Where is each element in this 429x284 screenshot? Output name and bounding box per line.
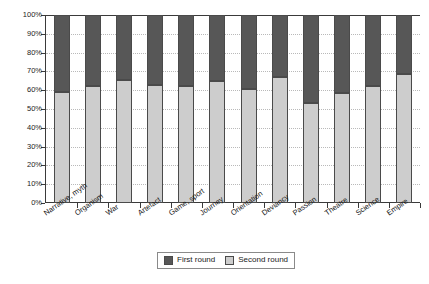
y-tick-label: 50%: [2, 105, 42, 113]
bar-segment-first-round[interactable]: [365, 15, 381, 86]
stacked-bar[interactable]: [365, 15, 381, 203]
bar-slot: [233, 15, 264, 203]
x-tick-mark: [420, 203, 421, 208]
bar-slot: [389, 15, 420, 203]
bar-segment-first-round[interactable]: [147, 15, 163, 85]
stacked-bar[interactable]: [116, 15, 132, 203]
bar-slot: [327, 15, 358, 203]
bar-slot: [140, 15, 171, 203]
stacked-bar[interactable]: [334, 15, 350, 203]
bar-segment-second-round[interactable]: [334, 93, 350, 203]
y-tick-label: 10%: [2, 180, 42, 188]
bar-slot: [46, 15, 77, 203]
y-tick-label: 30%: [2, 143, 42, 151]
legend-item-second-round: Second round: [225, 255, 288, 265]
bar-segment-second-round[interactable]: [272, 77, 288, 203]
y-tick-label: 0%: [2, 199, 42, 207]
bar-segment-first-round[interactable]: [209, 15, 225, 81]
bar-segment-second-round[interactable]: [396, 74, 412, 203]
legend-swatch-first-round: [164, 256, 173, 265]
bar-segment-second-round[interactable]: [178, 86, 194, 203]
bar-segment-first-round[interactable]: [178, 15, 194, 86]
bar-segment-first-round[interactable]: [334, 15, 350, 93]
bar-segment-second-round[interactable]: [116, 80, 132, 203]
bar-segment-second-round[interactable]: [54, 92, 70, 203]
stacked-bar[interactable]: [241, 15, 257, 203]
bar-segment-second-round[interactable]: [209, 81, 225, 203]
bar-slot: [77, 15, 108, 203]
bar-slot: [358, 15, 389, 203]
y-tick-label: 100%: [2, 11, 42, 19]
bar-slot: [202, 15, 233, 203]
bar-segment-second-round[interactable]: [365, 86, 381, 204]
stacked-bar[interactable]: [147, 15, 163, 203]
bar-slot: [171, 15, 202, 203]
bar-segment-first-round[interactable]: [54, 15, 70, 92]
bar-segment-first-round[interactable]: [116, 15, 132, 80]
legend-label-first-round: First round: [177, 255, 215, 265]
bar-segment-second-round[interactable]: [241, 89, 257, 203]
legend-label-second-round: Second round: [238, 255, 288, 265]
bar-slot: [264, 15, 295, 203]
bar-segment-first-round[interactable]: [303, 15, 319, 103]
y-tick-label: 60%: [2, 86, 42, 94]
stacked-bar[interactable]: [209, 15, 225, 203]
bar-segment-first-round[interactable]: [396, 15, 412, 74]
legend-swatch-second-round: [225, 256, 234, 265]
y-tick-label: 90%: [2, 30, 42, 38]
bars-layer: [46, 15, 420, 203]
y-tick-label: 20%: [2, 161, 42, 169]
bar-segment-first-round[interactable]: [85, 15, 101, 86]
bar-segment-first-round[interactable]: [272, 15, 288, 77]
stacked-bar-chart: 0%10%20%30%40%50%60%70%80%90%100% Narrat…: [0, 0, 429, 284]
stacked-bar[interactable]: [303, 15, 319, 203]
stacked-bar[interactable]: [272, 15, 288, 203]
bar-slot: [108, 15, 139, 203]
stacked-bar[interactable]: [54, 15, 70, 203]
stacked-bar[interactable]: [396, 15, 412, 203]
y-tick-label: 80%: [2, 49, 42, 57]
chart-legend: First round Second round: [157, 252, 295, 269]
bar-segment-first-round[interactable]: [241, 15, 257, 89]
legend-item-first-round: First round: [164, 255, 215, 265]
stacked-bar[interactable]: [85, 15, 101, 203]
bar-slot: [295, 15, 326, 203]
bar-segment-second-round[interactable]: [147, 85, 163, 203]
y-tick-label: 70%: [2, 67, 42, 75]
y-tick-label: 40%: [2, 124, 42, 132]
stacked-bar[interactable]: [178, 15, 194, 203]
x-axis-label: War: [104, 202, 120, 217]
bar-segment-second-round[interactable]: [303, 103, 319, 203]
